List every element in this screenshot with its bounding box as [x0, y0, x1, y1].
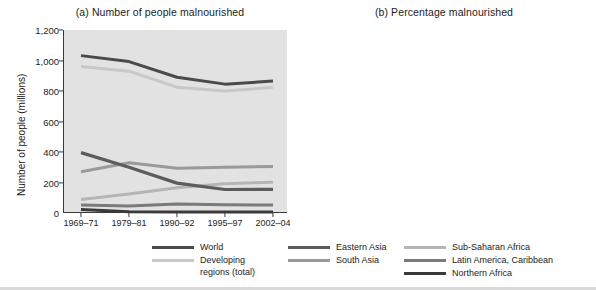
legend-swatch-line-icon	[152, 246, 194, 249]
legend-item: Developingregions (total)	[152, 255, 282, 278]
x-tick-mark	[80, 213, 81, 217]
y-tick-label: 0	[54, 208, 59, 219]
y-tick-label: 400	[43, 147, 59, 158]
legend-item: South Asia	[288, 255, 406, 267]
legend-swatch-line-icon	[404, 272, 446, 275]
x-tick-mark	[272, 213, 273, 217]
legend-item: Latin America, Caribbean	[404, 255, 584, 267]
x-tick-label: 1979–81	[111, 218, 146, 228]
legend-item-label: Northern Africa	[452, 268, 512, 280]
chart-legend: WorldDevelopingregions (total) Eastern A…	[0, 242, 596, 290]
x-tick-mark	[176, 213, 177, 217]
legend-item-label: Latin America, Caribbean	[452, 255, 553, 267]
legend-swatch-line-icon	[288, 259, 330, 262]
x-tick-label: 1995–97	[207, 218, 242, 228]
legend-item: Eastern Asia	[288, 242, 406, 254]
legend-swatch-line-icon	[288, 246, 330, 249]
legend-column-2: Sub-Saharan AfricaLatin America, Caribbe…	[404, 242, 584, 281]
series-line	[81, 67, 273, 91]
legend-item-label-line2: regions (total)	[200, 267, 255, 279]
x-tick-label: 1990–92	[159, 218, 194, 228]
series-line	[81, 163, 273, 172]
y-tick-label: 200	[43, 177, 59, 188]
legend-item: Sub-Saharan Africa	[404, 242, 584, 254]
y-tick-label: 1,000	[35, 55, 59, 66]
panel-a-y-axis-label: Number of people (millions)	[16, 74, 27, 196]
legend-item-label: South Asia	[336, 255, 379, 267]
y-tick-mark	[59, 29, 63, 30]
y-tick-label: 600	[43, 116, 59, 127]
legend-item-label: World	[200, 242, 223, 254]
legend-item-label: Eastern Asia	[336, 242, 387, 254]
y-tick-label: 1,200	[35, 25, 59, 36]
y-tick-mark	[59, 60, 63, 61]
panel-a-plot-area: 02004006008001,0001,2001969–711979–81199…	[63, 30, 287, 213]
y-tick-mark	[59, 151, 63, 152]
legend-column-1: Eastern AsiaSouth Asia	[288, 242, 406, 268]
figure-root: (a) Number of people malnourished Number…	[0, 0, 596, 290]
chart-panel-a: (a) Number of people malnourished Number…	[0, 0, 300, 240]
legend-swatch-line-icon	[152, 259, 194, 262]
legend-swatch-line-icon	[404, 259, 446, 262]
legend-item-label: Sub-Saharan Africa	[452, 242, 530, 254]
legend-item: Northern Africa	[404, 268, 584, 280]
y-tick-label: 800	[43, 86, 59, 97]
y-tick-mark	[59, 121, 63, 122]
chart-panel-b: (b) Percentage malnourished Percentage 0…	[300, 0, 596, 240]
x-tick-label: 1969–71	[63, 218, 98, 228]
legend-item: World	[152, 242, 282, 254]
panel-b-title: (b) Percentage malnourished	[300, 6, 596, 18]
legend-swatch-line-icon	[404, 246, 446, 249]
legend-item-label: Developing	[200, 255, 245, 267]
panel-a-title: (a) Number of people malnourished	[0, 6, 300, 18]
legend-column-0: WorldDevelopingregions (total)	[152, 242, 282, 280]
x-tick-mark	[224, 213, 225, 217]
y-tick-mark	[59, 182, 63, 183]
y-tick-mark	[59, 90, 63, 91]
x-tick-label: 2002–04	[255, 218, 290, 228]
x-tick-mark	[128, 213, 129, 217]
